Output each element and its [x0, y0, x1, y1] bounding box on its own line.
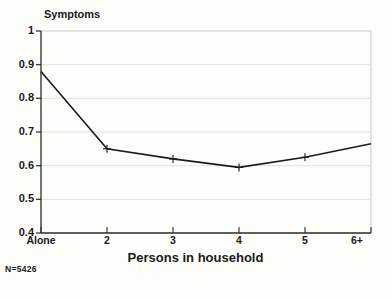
x-tick-label-alone: Alone: [17, 234, 65, 246]
data-line-symptoms: [41, 71, 371, 167]
x-tick-label-3: 3: [153, 234, 193, 246]
x-tick-label-5: 5: [285, 234, 325, 246]
chart-figure: Symptoms 1 0.9 0.8 0.7 0.6 0.5 0.4: [0, 0, 391, 300]
x-tick-label-6plus: 6+: [351, 234, 389, 246]
x-axis-title: Persons in household: [0, 250, 391, 265]
sample-size-note: N=5426: [5, 264, 37, 274]
x-tick-label-4: 4: [219, 234, 259, 246]
x-tick-label-2: 2: [87, 234, 127, 246]
data-point-markers: [103, 145, 309, 172]
